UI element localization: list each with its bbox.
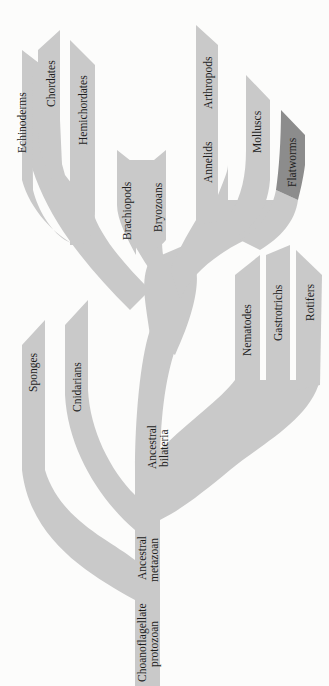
label-annelids: Annelids [202, 141, 214, 183]
label-sponges: Sponges [27, 353, 40, 393]
label-flatworms: Flatworms [286, 137, 298, 187]
label-root-line2: protozoan [148, 621, 161, 667]
label-gastrotrichs: Gastrotrichs [272, 284, 284, 341]
label-metazoan-line2: metazoan [148, 538, 160, 582]
label-molluscs: Molluscs [251, 110, 263, 153]
label-bilateria-line2: bilateria [158, 429, 170, 467]
tree-svg: Choanoflagellate protozoan Ancestral met… [0, 0, 329, 686]
branch-annelids-arthropods [196, 25, 228, 225]
label-nematodes: Nematodes [241, 304, 253, 356]
label-cnidarians: Cnidarians [71, 362, 83, 412]
label-bryozoans: Bryozoans [152, 182, 165, 232]
label-chordates: Chordates [45, 60, 57, 107]
label-metazoan-line1: Ancestral [136, 536, 148, 580]
branch-cnidarians [65, 300, 135, 530]
branch-cycloneuralia-stem [160, 380, 320, 520]
label-brachiopods: Brachiopods [121, 181, 134, 240]
label-arthropods: Arthropods [202, 56, 215, 109]
label-hemichordates: Hemichordates [77, 75, 89, 145]
label-bilateria-line1: Ancestral [146, 425, 158, 469]
label-echinoderms: Echinoderms [16, 92, 28, 153]
label-rotifers: Rotifers [304, 283, 316, 321]
phylogenetic-tree-diagram: Choanoflagellate protozoan Ancestral met… [0, 0, 329, 686]
